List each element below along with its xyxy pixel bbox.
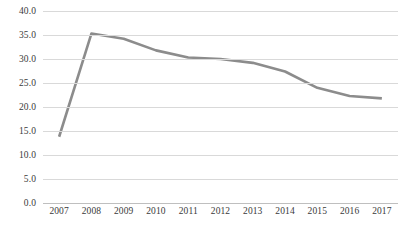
gridline-5.0 — [43, 179, 398, 180]
x-tick-label: 2008 — [82, 206, 101, 216]
y-tick-label: 10.0 — [19, 150, 36, 160]
x-tick-label: 2015 — [308, 206, 327, 216]
x-tick-label: 2007 — [49, 206, 68, 216]
gridline-15.0 — [43, 131, 398, 132]
gridline-30.0 — [43, 59, 398, 60]
y-axis: 0.05.010.015.020.025.030.035.040.0 — [0, 11, 40, 203]
y-tick-label: 25.0 — [19, 78, 36, 88]
x-tick-label: 2010 — [146, 206, 165, 216]
y-tick-label: 40.0 — [19, 6, 36, 16]
y-tick-label: 0.0 — [24, 198, 36, 208]
x-tick-label: 2017 — [372, 206, 391, 216]
plot-area — [43, 11, 398, 203]
x-tick-label: 2016 — [340, 206, 359, 216]
gridline-10.0 — [43, 155, 398, 156]
gridline-0.0 — [43, 203, 398, 204]
x-tick-label: 2013 — [243, 206, 262, 216]
y-tick-label: 15.0 — [19, 126, 36, 136]
x-tick-label: 2011 — [179, 206, 198, 216]
y-tick-label: 30.0 — [19, 54, 36, 64]
x-axis: 2007200820092010201120122013201420152016… — [43, 206, 398, 226]
x-tick-label: 2012 — [211, 206, 230, 216]
chart-page: 0.05.010.015.020.025.030.035.040.0 20072… — [0, 0, 410, 236]
gridline-40.0 — [43, 11, 398, 12]
x-tick-label: 2009 — [114, 206, 133, 216]
x-tick-label: 2014 — [275, 206, 294, 216]
y-tick-label: 20.0 — [19, 102, 36, 112]
gridline-35.0 — [43, 35, 398, 36]
gridline-25.0 — [43, 83, 398, 84]
series-line-path — [59, 34, 382, 137]
y-tick-label: 35.0 — [19, 30, 36, 40]
gridline-20.0 — [43, 107, 398, 108]
y-tick-label: 5.0 — [24, 174, 36, 184]
